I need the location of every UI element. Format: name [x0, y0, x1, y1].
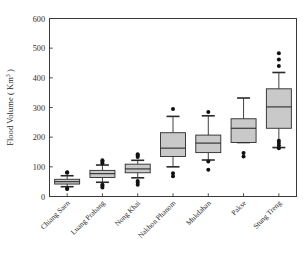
outlier-point [65, 186, 69, 190]
y-tick-label: 0 [41, 193, 45, 202]
box-iqr [196, 135, 221, 153]
outlier-point [242, 154, 246, 158]
y-tick-label: 200 [33, 133, 45, 142]
outlier-point [65, 170, 69, 174]
outlier-point [100, 158, 104, 162]
outlier-point [206, 159, 210, 163]
outlier-point [277, 51, 281, 55]
y-tick-label: 400 [33, 74, 45, 83]
outlier-point [277, 64, 281, 68]
y-axis-title: Flood Volume ( Km3 ) [5, 69, 15, 146]
y-tick-label: 300 [33, 104, 45, 113]
y-tick-label: 500 [33, 44, 45, 53]
box-iqr [266, 89, 291, 128]
flood-volume-boxplot-figure: 0100200300400500600 Flood Volume ( Km3 )… [0, 0, 307, 256]
outlier-point [277, 139, 281, 143]
y-tick-label: 600 [33, 15, 45, 24]
outlier-point [136, 152, 140, 156]
outlier-point [206, 168, 210, 172]
outlier-point [171, 171, 175, 175]
boxplot-chart: 0100200300400500600 Flood Volume ( Km3 )… [0, 0, 307, 256]
y-tick-label: 100 [33, 163, 45, 172]
box-iqr [161, 133, 186, 157]
y-axis-title-text: Flood Volume ( Km3 ) [5, 69, 15, 146]
outlier-point [171, 107, 175, 111]
outlier-point [136, 179, 140, 183]
outlier-point [206, 110, 210, 114]
outlier-point [100, 183, 104, 187]
outlier-point [277, 57, 281, 61]
box-iqr [231, 119, 256, 143]
outlier-point [242, 151, 246, 155]
